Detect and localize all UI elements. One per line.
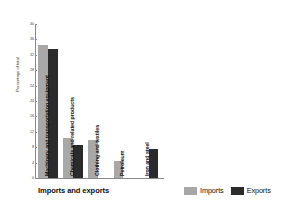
- category-label: Machinery and transportation equipment: [44, 75, 50, 176]
- bar-chart-figure: 0481216202428323640 Percentage of total …: [0, 0, 299, 212]
- y-axis-tick-label: 0: [20, 176, 34, 180]
- y-axis-tick-mark: [35, 178, 37, 179]
- bar-group: Petroleum: [114, 24, 139, 178]
- y-axis-tick-label: 28: [20, 68, 34, 72]
- legend-swatch-exports: [231, 187, 244, 195]
- y-axis-tick-mark: [35, 147, 37, 148]
- y-axis-tick-label: 32: [20, 53, 34, 57]
- y-axis-tick-label: 16: [20, 114, 34, 118]
- y-axis-tick-mark: [35, 132, 37, 133]
- y-axis-tick-mark: [35, 55, 37, 56]
- bar-group: Machinery and transportation equipment: [38, 24, 63, 178]
- legend-label-imports: Imports: [200, 186, 224, 195]
- y-axis-tick-mark: [35, 86, 37, 87]
- x-axis-title: Imports and exports: [38, 186, 109, 195]
- bar-group: Clothing and textiles: [88, 24, 113, 178]
- bar-group: Chemicals and related products: [63, 24, 88, 178]
- legend-item-imports: Imports: [184, 186, 224, 195]
- category-label: Chemicals and related products: [69, 97, 75, 176]
- plot-area: Machinery and transportation equipmentCh…: [36, 24, 162, 178]
- y-axis-tick-label: 4: [20, 161, 34, 165]
- legend-swatch-imports: [184, 187, 197, 195]
- y-axis-title: Percentage of total: [15, 45, 20, 105]
- y-axis-ticks: 0481216202428323640: [18, 24, 34, 179]
- category-label: Petroleum: [119, 151, 125, 176]
- legend-label-exports: Exports: [247, 186, 271, 195]
- y-axis-tick-label: 20: [20, 99, 34, 103]
- y-axis-tick-label: 8: [20, 145, 34, 149]
- chart-legend: Imports Exports: [184, 186, 271, 195]
- legend-item-exports: Exports: [231, 186, 271, 195]
- bar-group: Iron and steel: [139, 24, 164, 178]
- y-axis-tick-mark: [35, 24, 37, 25]
- category-label: Clothing and textiles: [94, 125, 100, 176]
- category-label: Iron and steel: [144, 142, 150, 176]
- y-axis-tick-label: 24: [20, 84, 34, 88]
- y-axis-tick-mark: [35, 39, 37, 40]
- y-axis-tick-mark: [35, 101, 37, 102]
- y-axis-tick-label: 40: [20, 22, 34, 26]
- y-axis-tick-label: 12: [20, 130, 34, 134]
- y-axis-tick-label: 36: [20, 37, 34, 41]
- bar-exports[interactable]: [149, 149, 159, 178]
- x-axis-line: [36, 178, 164, 179]
- y-axis-tick-mark: [35, 163, 37, 164]
- y-axis-tick-mark: [35, 116, 37, 117]
- y-axis-tick-mark: [35, 70, 37, 71]
